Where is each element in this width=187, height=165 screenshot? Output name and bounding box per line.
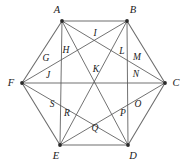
vertex-dot-e bbox=[58, 143, 62, 147]
edge-cd bbox=[128, 83, 165, 145]
vertex-dot-c bbox=[163, 81, 167, 85]
inner-point-label-s: S bbox=[50, 100, 55, 110]
inner-point-label-p: P bbox=[120, 109, 126, 119]
vertex-label-f: F bbox=[8, 78, 14, 89]
inner-point-label-m: M bbox=[133, 53, 141, 63]
inner-point-label-n: N bbox=[133, 70, 139, 80]
inner-point-label-j: J bbox=[46, 71, 50, 81]
diagonal-ac bbox=[62, 21, 165, 83]
hexagon-figure: ABCDEF GHIJKLMNOPQRS bbox=[0, 0, 187, 165]
vertex-dot-a bbox=[60, 19, 64, 23]
vertex-label-a: A bbox=[54, 5, 60, 16]
inner-point-label-q: Q bbox=[92, 124, 99, 134]
inner-point-label-k: K bbox=[93, 65, 99, 75]
inner-point-label-r: R bbox=[64, 109, 70, 119]
diagonal-bf bbox=[22, 21, 127, 83]
vertex-label-e: E bbox=[53, 151, 59, 162]
inner-point-label-l: L bbox=[119, 47, 124, 57]
inner-point-label-g: G bbox=[43, 54, 50, 64]
vertex-dot-d bbox=[126, 143, 130, 147]
vertex-label-c: C bbox=[172, 78, 179, 89]
vertex-dot-f bbox=[20, 81, 24, 85]
inner-point-label-h: H bbox=[63, 46, 70, 56]
vertex-label-b: B bbox=[130, 5, 136, 16]
vertex-label-d: D bbox=[129, 151, 137, 162]
edge-ef bbox=[22, 83, 60, 145]
inner-point-label-o: O bbox=[135, 100, 142, 110]
edge-fa bbox=[22, 21, 62, 83]
inner-point-label-i: I bbox=[93, 29, 96, 39]
hexagon-diagram-svg bbox=[0, 0, 187, 165]
vertex-dot-b bbox=[125, 19, 129, 23]
